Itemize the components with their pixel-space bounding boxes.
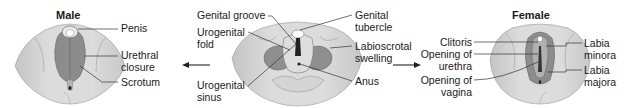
label-opening-urethra-1: Opening of (421, 49, 472, 60)
label-labioscrotal-1: Labioscrotal (355, 41, 412, 52)
label-penis: Penis (121, 23, 147, 34)
label-genital-groove: Genital groove (197, 10, 265, 21)
indifferent-illustration (232, 15, 362, 106)
label-clitoris: Clitoris (440, 37, 472, 48)
label-urogenital-sinus-2: sinus (197, 92, 222, 103)
label-urethral-closure-1: Urethral (121, 50, 158, 61)
female-illustration (474, 24, 590, 104)
label-labia-minora-2: minora (584, 50, 616, 61)
label-genital-tubercle-1: Genital (355, 10, 388, 21)
arrow-left-icon (182, 62, 210, 68)
label-urogenital-fold-2: fold (197, 39, 214, 50)
label-opening-vagina-2: vagina (441, 87, 472, 98)
label-anus: Anus (355, 76, 379, 87)
label-scrotum: Scrotum (121, 77, 160, 88)
label-labia-minora-1: Labia (584, 38, 610, 49)
male-title: Male (56, 9, 80, 21)
label-opening-urethra-2: urethra (439, 61, 472, 72)
label-labia-majora-2: majora (584, 77, 616, 88)
arrow-right-icon (393, 62, 421, 68)
label-labia-majora-1: Labia (584, 65, 610, 76)
label-urogenital-sinus-1: Urogenital (197, 80, 245, 91)
label-labioscrotal-2: swelling (355, 53, 392, 64)
label-opening-vagina-1: Opening of (421, 75, 472, 86)
female-title: Female (512, 9, 550, 21)
male-illustration (15, 24, 125, 104)
label-genital-tubercle-2: tubercle (355, 22, 392, 33)
label-urethral-closure-2: closure (121, 62, 155, 73)
label-urogenital-fold-1: Urogenital (197, 27, 245, 38)
